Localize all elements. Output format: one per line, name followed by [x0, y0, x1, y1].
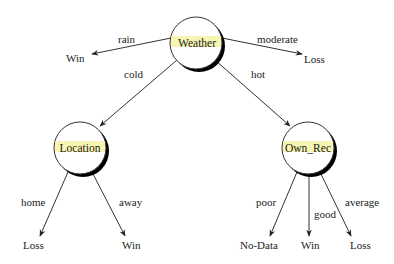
leaf-win: Win — [301, 239, 320, 251]
node-weather: Weather — [170, 17, 225, 72]
node-location-label: Location — [60, 142, 101, 154]
node-location: Location — [54, 122, 109, 177]
edge-label-home: home — [21, 196, 46, 208]
edge-label-rain: rain — [118, 33, 136, 45]
leaf-win: Win — [122, 239, 141, 251]
leaf-loss: Loss — [350, 239, 371, 251]
edge-label-away: away — [119, 196, 143, 208]
node-own-rec: Own_Rec — [282, 122, 337, 177]
edge-label-hot: hot — [251, 68, 265, 80]
node-own-rec-label: Own_Rec — [285, 142, 331, 154]
edge-label-moderate: moderate — [257, 33, 298, 45]
edge-label-cold: cold — [124, 68, 143, 80]
decision-tree-diagram: Weather Location Own_Rec rain moderate c… — [0, 0, 394, 264]
leaf-win: Win — [66, 52, 85, 64]
leaf-loss: Loss — [23, 239, 44, 251]
leaf-loss: Loss — [304, 53, 325, 65]
edge-label-good: good — [314, 208, 337, 220]
edge-label-average: average — [345, 196, 379, 208]
edge-label-poor: poor — [256, 196, 277, 208]
node-weather-label: Weather — [178, 37, 216, 49]
leaf-no-data: No-Data — [240, 239, 278, 251]
